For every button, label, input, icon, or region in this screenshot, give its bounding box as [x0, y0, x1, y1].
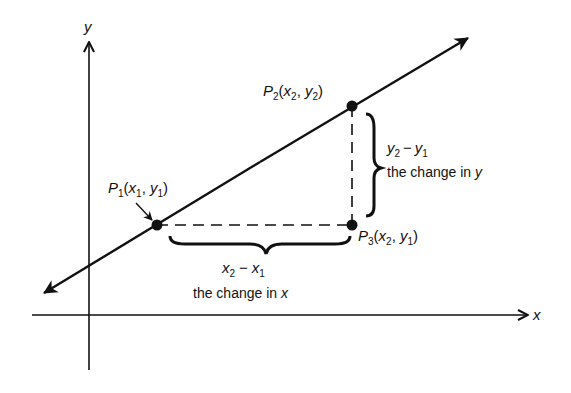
point-p3 [347, 220, 358, 231]
rise-brace-icon [366, 114, 381, 216]
slope-diagram: y x P1(x1, y1) P2(x2, y2) P3(x2, y1) y2−… [0, 0, 571, 393]
point-p2 [347, 101, 358, 112]
point-p1 [152, 220, 163, 231]
x-axis-label: x [532, 306, 541, 323]
p1-label: P1(x1, y1) [108, 179, 168, 199]
run-expression: x2−x1 [221, 259, 265, 279]
rise-expression: y2−y1 [386, 139, 428, 159]
y-axis-label: y [83, 18, 93, 35]
run-brace-icon [170, 236, 350, 254]
p3-label: P3(x2, y1) [358, 227, 418, 247]
rise-caption: the change in y [387, 164, 483, 180]
p2-label: P2(x2, y2) [263, 82, 323, 102]
p1-pointer-arrow-icon [136, 203, 152, 220]
run-caption: the change in x [193, 285, 289, 301]
